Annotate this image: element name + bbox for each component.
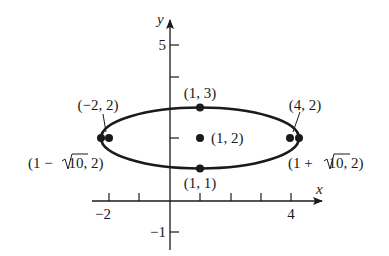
y-tick-label-5: 5 xyxy=(159,37,167,53)
label-left-vertex: (1 − 10, 2) xyxy=(28,154,103,172)
label-center: (1, 2) xyxy=(211,130,244,147)
label-top-vertex: (1, 3) xyxy=(184,85,217,102)
x-axis-label: x xyxy=(315,181,323,197)
point-bottom-vertex xyxy=(196,165,204,173)
point-right-vertex xyxy=(295,134,303,142)
label-bottom-vertex: (1, 1) xyxy=(184,175,217,192)
point-center xyxy=(196,134,204,142)
ellipse-diagram: −2 4 x 5 −1 y (1, 3) (1, xyxy=(0,0,389,256)
label-right-focus: (4, 2) xyxy=(289,97,322,114)
y-axis: 5 −1 y xyxy=(150,11,179,250)
svg-text:(1 − 10, 2): (1 − 10, 2) xyxy=(28,155,103,172)
svg-text:(1 + 10, 2): (1 + 10, 2) xyxy=(288,155,363,172)
label-right-vertex: (1 + 10, 2) xyxy=(288,154,363,172)
y-tick-label-neg1: −1 xyxy=(150,224,166,240)
x-tick-label-4: 4 xyxy=(287,206,295,222)
y-axis-label: y xyxy=(155,11,164,27)
label-left-focus: (−2, 2) xyxy=(78,97,119,114)
point-left-focus xyxy=(105,134,113,142)
point-left-vertex xyxy=(97,134,105,142)
point-top-vertex xyxy=(196,104,204,112)
x-tick-label-neg2: −2 xyxy=(95,206,111,222)
point-right-focus xyxy=(286,134,294,142)
